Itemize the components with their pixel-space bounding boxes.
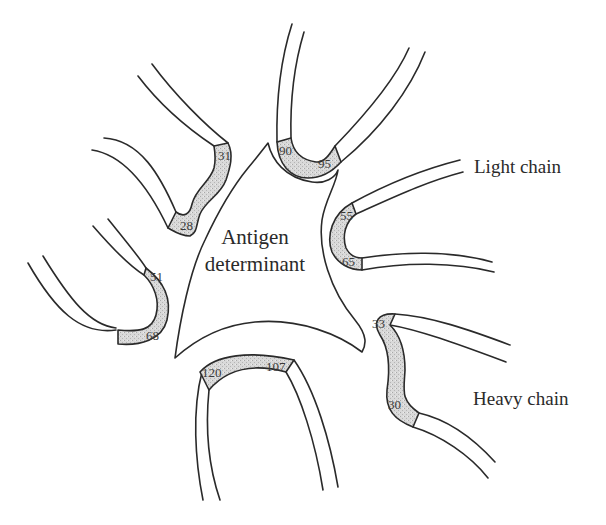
strand [390,325,506,362]
strand [419,413,495,462]
strand [352,160,460,203]
residue-number-90: 90 [279,143,292,158]
strand [104,138,176,212]
strand [291,32,304,138]
residue-number-95: 95 [318,156,331,171]
residue-number-65: 65 [342,254,355,269]
strand [93,226,144,275]
residue-number-107: 107 [266,359,286,374]
strand [28,263,116,331]
strand [413,427,488,478]
strand [138,76,214,146]
loop-90-95: 90 95 [277,24,425,178]
residue-number-28: 28 [180,218,193,233]
strand [335,48,409,146]
strand [341,52,425,162]
antigen-determinant-label-line2: determinant [205,252,305,276]
loop-55-65: 55 65 [330,160,494,272]
residue-number-120: 120 [202,365,222,380]
residue-number-51: 51 [150,269,163,284]
loop-107-120: 120 107 [196,355,338,500]
residue-number-31: 31 [218,148,231,163]
strand [277,24,292,142]
strand [207,390,220,500]
residue-number-30: 30 [388,397,401,412]
heavy-chain-label: Heavy chain [473,388,569,409]
strand [362,264,494,272]
light-chain-label: Light chain [474,156,562,177]
antigen-determinant-label-line1: Antigen [221,225,289,249]
strand [286,372,323,490]
strand [152,64,228,143]
residue-number-68: 68 [146,328,159,343]
strand [43,256,116,328]
residue-number-33: 33 [372,316,385,331]
strand [92,150,168,228]
residue-number-55: 55 [340,208,353,223]
strand [362,253,492,262]
antibody-combining-site-diagram: 31 28 90 95 55 65 51 68 120 [0,0,606,525]
strand [196,372,203,500]
strand [294,360,338,487]
loop-51-68: 51 68 [28,219,168,344]
loop-28-31: 31 28 [92,64,231,236]
